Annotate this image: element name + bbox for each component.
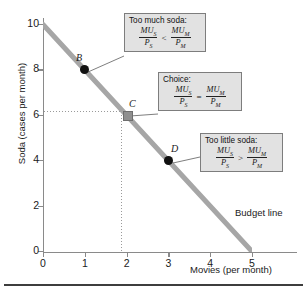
fraction-left: MUS PS	[216, 147, 234, 168]
fraction-right: MUM PM	[171, 27, 191, 48]
data-point-d[interactable]	[164, 156, 173, 165]
callout-too-much-soda: Too much soda: MUS PS < MUM PM	[124, 13, 206, 52]
callout-too-much-soda-title: Too much soda:	[129, 16, 201, 26]
data-point-label-c: C	[129, 98, 136, 109]
fraction-right: MUM PM	[206, 86, 226, 107]
operator: <	[160, 33, 167, 43]
operator: >	[237, 153, 244, 163]
callout-too-little-soda: Too little soda: MUS PS > MUM PM	[200, 133, 283, 172]
callout-choice: Choice: MUS PS = MUM PM	[158, 72, 242, 111]
callout-too-little-soda-title: Too little soda:	[205, 136, 278, 146]
callout-too-much-soda-formula: MUS PS < MUM PM	[129, 27, 201, 48]
callout-choice-title: Choice:	[163, 75, 237, 85]
data-point-label-b: B	[76, 52, 82, 63]
data-point-label-d: D	[171, 143, 178, 154]
operator: =	[195, 92, 202, 102]
callout-too-little-soda-formula: MUS PS > MUM PM	[205, 147, 278, 168]
budget-line-figure: 0 2 4 6 8 10 0 1 2 3 4 5 Soda (cases per…	[0, 0, 307, 292]
callout-choice-formula: MUS PS = MUM PM	[163, 86, 237, 107]
fraction-left: MUS PS	[174, 86, 192, 107]
data-point-c[interactable]	[123, 111, 133, 121]
fraction-left: MUS PS	[139, 27, 157, 48]
fraction-right: MUM PM	[247, 147, 267, 168]
